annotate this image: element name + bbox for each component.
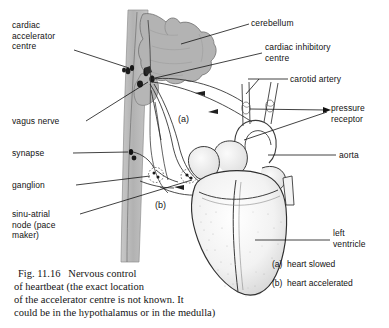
label-aorta: aorta [339, 150, 359, 161]
label-cerebellum: cerebellum [251, 18, 294, 29]
ganglion-shape [149, 168, 164, 183]
label-sinu-atrial-node: sinu-atrial node (pace maker) [12, 209, 56, 241]
caption-line-3: of the accelerator centre is not known. … [14, 294, 184, 307]
caption-line-1: Fig. 11.16 Nervous control [18, 268, 136, 281]
key-item-b: (b) heart accelerated [272, 278, 353, 289]
label-ganglion: ganglion [12, 180, 45, 191]
label-vagus-nerve: vagus nerve [12, 116, 59, 127]
label-cardiac-accelerator-centre: cardiac accelerator centre [12, 20, 55, 52]
accelerator-centre-dot [130, 65, 134, 71]
synapse-dot [129, 149, 133, 155]
caption-line-2: of heartbeat (the exact location [14, 281, 144, 294]
annotation-b-marker: (b) [155, 200, 166, 210]
annotation-a-marker: (a) [178, 114, 189, 124]
key-item-a: (a) heart slowed [272, 259, 335, 270]
label-pressure-receptor: pressure receptor [331, 103, 365, 124]
label-cardiac-inhibitory-centre: cardiac inhibitory centre [265, 42, 331, 63]
caption-line-4: could be in the hypothalamus or in the m… [14, 307, 215, 320]
label-synapse: synapse [12, 148, 44, 159]
label-carotid-artery: carotid artery [290, 74, 341, 85]
synapse-dot-2 [132, 156, 137, 161]
label-left-ventricle: left ventricle [333, 228, 366, 249]
